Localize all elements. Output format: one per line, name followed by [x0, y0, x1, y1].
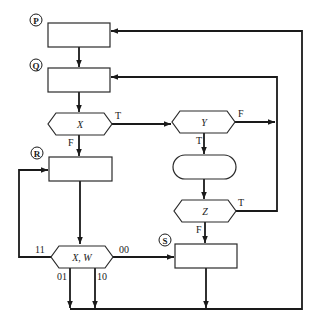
xw-00-label: 00: [119, 244, 129, 255]
connector-r: R: [31, 147, 43, 159]
process-box-p: [48, 23, 110, 47]
xw-11-label: 11: [35, 244, 45, 255]
connector-p-label: P: [33, 16, 39, 26]
connector-r-label: R: [34, 149, 41, 159]
connector-q: Q: [30, 59, 42, 71]
flowchart-canvas: X Y Z X, W T F F T T F 11 00 01 10 P Q R…: [0, 0, 317, 328]
xw-10-label: 10: [97, 271, 107, 282]
decision-x-label: X: [76, 119, 84, 130]
decision-xw-label: X, W: [71, 252, 93, 263]
y-true-label: T: [196, 135, 202, 146]
connector-s-label: S: [162, 236, 167, 246]
x-false-label: F: [68, 137, 74, 148]
terminal-box: [173, 155, 236, 179]
decision-z-label: Z: [202, 206, 208, 217]
connector-q-label: Q: [32, 61, 39, 71]
process-box-q: [48, 68, 110, 92]
z-false-label: F: [196, 224, 202, 235]
xw-01-label: 01: [57, 271, 67, 282]
process-box-s: [175, 244, 237, 268]
connector-s: S: [159, 234, 171, 246]
process-box-r: [49, 157, 112, 181]
y-false-label: F: [238, 108, 244, 119]
z-true-label: T: [238, 197, 244, 208]
arrow-z-true-loop-to-q: [111, 77, 277, 211]
x-true-label: T: [115, 110, 121, 121]
connector-p: P: [30, 14, 42, 26]
